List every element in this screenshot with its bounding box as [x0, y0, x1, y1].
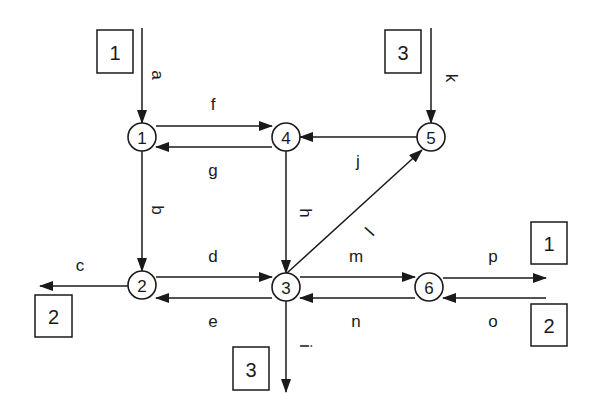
- terminal-box-sink-1-right: 1: [531, 222, 567, 264]
- edge-label: m: [349, 247, 363, 266]
- edge-label: n: [351, 312, 360, 331]
- edge-label: g: [208, 161, 217, 180]
- edge-label: o: [488, 312, 497, 331]
- edge-a: a: [142, 28, 167, 123]
- edge-f: f: [156, 95, 272, 127]
- edge-label: f: [211, 95, 216, 114]
- box-label: 1: [543, 233, 554, 255]
- node-label: 3: [281, 279, 290, 298]
- edge-e: e: [156, 298, 272, 331]
- node-6: 6: [415, 273, 443, 301]
- edge-b: b: [142, 151, 167, 271]
- box-label: 1: [109, 42, 120, 64]
- node-3: 3: [272, 273, 300, 301]
- edge-label: h: [296, 208, 315, 217]
- node-label: 4: [281, 129, 290, 148]
- terminal-box-source-3: 3: [385, 30, 421, 73]
- edge-i: i: [286, 301, 315, 392]
- box-label: 3: [245, 359, 256, 381]
- node-1: 1: [128, 123, 156, 151]
- edge-n: n: [300, 298, 415, 331]
- box-label: 2: [48, 306, 59, 328]
- edge-label: a: [148, 70, 167, 80]
- edge-h: h: [286, 151, 315, 273]
- edge-j: j: [300, 137, 417, 171]
- node-5: 5: [417, 123, 445, 151]
- node-label: 5: [426, 129, 435, 148]
- edge-label: c: [76, 256, 85, 275]
- network-flow-diagram: abcdefghijklmnop 132312 123456: [0, 0, 602, 415]
- diagram-svg: abcdefghijklmnop 132312 123456: [0, 0, 602, 415]
- edge-m: m: [300, 247, 415, 278]
- box-label: 2: [543, 315, 554, 337]
- node-label: 6: [424, 279, 433, 298]
- edge-c: c: [40, 256, 128, 287]
- terminal-box-sink-2-left: 2: [35, 295, 72, 337]
- node-4: 4: [272, 123, 300, 151]
- node-label: 1: [137, 129, 146, 148]
- edge-label: j: [355, 152, 360, 171]
- edge-label: e: [208, 312, 217, 331]
- edge-d: d: [156, 247, 272, 278]
- box-label: 3: [397, 42, 408, 64]
- terminal-box-sink-3-bottom: 3: [233, 347, 269, 390]
- terminal-box-source-1: 1: [97, 30, 133, 73]
- terminal-box-source-2-right: 2: [531, 304, 567, 346]
- edge-g: g: [156, 147, 272, 180]
- edge-label: p: [488, 247, 497, 266]
- edge-label: d: [208, 247, 217, 266]
- edge-label: l: [362, 224, 379, 240]
- edge-k: k: [431, 28, 461, 123]
- edge-label: k: [442, 74, 461, 83]
- edges-layer: abcdefghijklmnop: [40, 28, 546, 392]
- edge-label: b: [148, 205, 167, 214]
- node-label: 2: [137, 277, 146, 296]
- edge-label: i: [296, 344, 315, 348]
- node-2: 2: [128, 271, 156, 299]
